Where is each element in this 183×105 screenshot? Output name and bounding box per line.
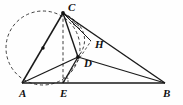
geometry-figure-svg: C H D A E B (0, 0, 183, 105)
center-dot-on-AC (41, 46, 44, 49)
vertex-label-E: E (59, 87, 67, 99)
vertex-label-H: H (94, 38, 104, 50)
vertex-dot-C (61, 11, 65, 15)
vertex-label-B: B (162, 87, 170, 99)
vertex-label-C: C (68, 1, 76, 13)
vertex-dot-D (76, 55, 80, 59)
segment-CD (63, 13, 78, 57)
geometry-figure-container: C H D A E B (0, 0, 183, 105)
vertex-label-A: A (18, 87, 26, 99)
vertex-label-D: D (83, 57, 92, 69)
segment-CB (63, 13, 165, 83)
